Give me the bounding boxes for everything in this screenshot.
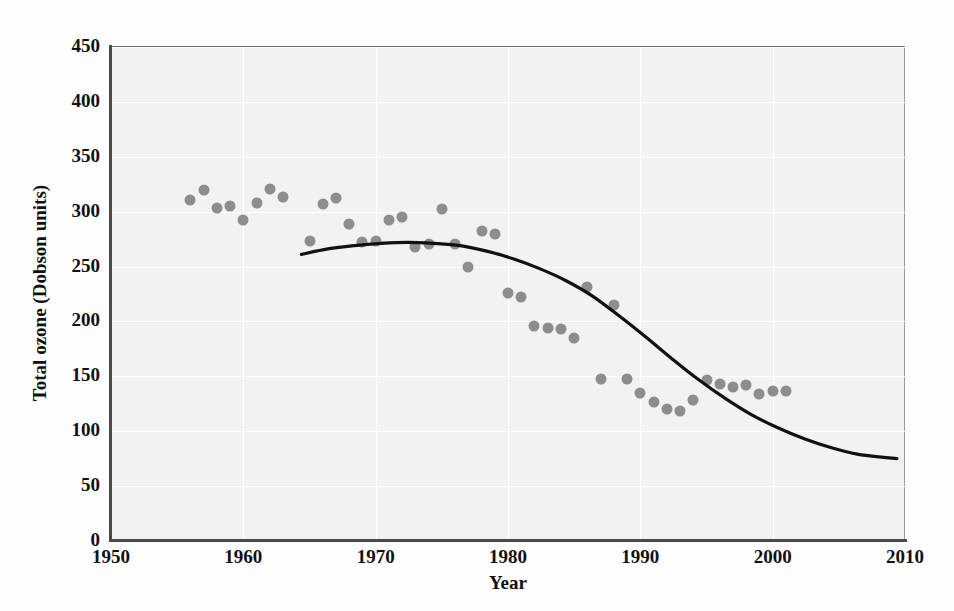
x-axis-line bbox=[109, 539, 907, 542]
y-tick-100: 100 bbox=[0, 419, 108, 441]
y-tick-50: 50 bbox=[0, 474, 108, 496]
x-tick-2000: 2000 bbox=[754, 546, 792, 568]
x-tick-1970: 1970 bbox=[357, 546, 395, 568]
y-tick-400: 400 bbox=[0, 90, 108, 112]
y-tick-350: 350 bbox=[0, 145, 108, 167]
y-axis-line bbox=[109, 45, 112, 541]
data-point bbox=[211, 203, 222, 214]
plot-area bbox=[111, 46, 905, 540]
data-point bbox=[198, 184, 209, 195]
trend-curve bbox=[222, 93, 954, 587]
y-tick-300: 300 bbox=[0, 200, 108, 222]
data-point bbox=[185, 194, 196, 205]
y-tick-250: 250 bbox=[0, 255, 108, 277]
x-tick-2010: 2010 bbox=[886, 546, 924, 568]
x-tick-1950: 1950 bbox=[92, 546, 130, 568]
figure-canvas: al supporting are now established to be … bbox=[0, 0, 954, 611]
y-tick-450: 450 bbox=[0, 35, 108, 57]
y-tick-200: 200 bbox=[0, 309, 108, 331]
x-tick-1990: 1990 bbox=[621, 546, 659, 568]
x-axis-title: Year bbox=[489, 572, 527, 594]
y-axis-title: Total ozone (Dobson units) bbox=[29, 185, 51, 401]
x-tick-1980: 1980 bbox=[489, 546, 527, 568]
x-tick-1960: 1960 bbox=[224, 546, 262, 568]
y-tick-150: 150 bbox=[0, 364, 108, 386]
